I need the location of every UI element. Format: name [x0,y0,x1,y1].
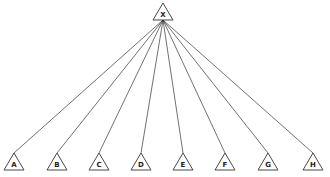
tree-svg: X ABCDEFGH [0,0,330,177]
leaf-node-f: F [215,153,235,170]
edges [14,20,313,153]
leaf-label: H [310,161,316,169]
leaf-label: G [265,161,271,169]
root-node: X [153,3,173,20]
edge-a [14,20,163,153]
edge-h [163,20,313,153]
leaf-label: A [11,161,17,169]
tree-diagram: X ABCDEFGH [0,0,330,177]
leaf-label: E [181,161,186,169]
edge-b [57,20,163,153]
leaf-node-a: A [4,153,24,170]
leaf-node-d: D [131,153,151,170]
leaf-label: F [223,161,228,169]
leaf-node-c: C [89,153,109,170]
edge-d [141,20,163,153]
leaf-node-g: G [258,153,278,170]
leaf-label: C [96,161,101,169]
leaf-node-b: B [47,153,67,170]
leaf-node-e: E [173,153,193,170]
leaf-label: B [54,161,59,169]
leaf-label: D [138,161,144,169]
edge-e [163,20,183,153]
edge-c [99,20,163,153]
root-label: X [160,11,166,19]
leaf-node-h: H [303,153,323,170]
leaf-nodes: ABCDEFGH [4,153,323,170]
